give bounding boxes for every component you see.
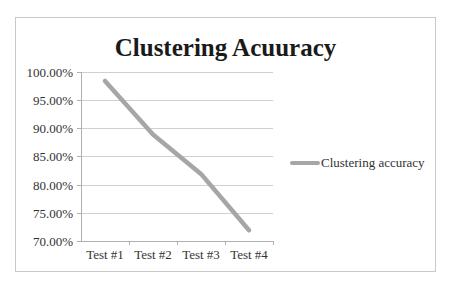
x-tick-label: Test #2 [134, 247, 172, 262]
axes [77, 72, 274, 245]
x-tick-labels: Test #1 Test #2 Test #3 Test #4 [86, 247, 268, 262]
legend-line-swatch-icon [290, 161, 320, 165]
plot-area: 100.00% 95.00% 90.00% 85.00% 80.00% 75.0… [0, 0, 451, 287]
y-tick-label: 80.00% [33, 178, 73, 193]
y-tick-labels: 100.00% 95.00% 90.00% 85.00% 80.00% 75.0… [26, 65, 73, 249]
x-tick-label: Test #4 [230, 247, 268, 262]
y-tick-label: 95.00% [33, 93, 73, 108]
y-tick-label: 75.00% [33, 206, 73, 221]
legend-label: Clustering accuracy [321, 155, 425, 171]
y-tick-label: 90.00% [33, 121, 73, 136]
y-tick-label: 85.00% [33, 149, 73, 164]
series-line-clustering-accuracy [105, 81, 249, 230]
y-tick-label: 100.00% [26, 65, 73, 80]
legend: Clustering accuracy [290, 155, 425, 171]
x-tick-label: Test #3 [182, 247, 220, 262]
y-tick-label: 70.00% [33, 234, 73, 249]
x-tick-label: Test #1 [86, 247, 124, 262]
gridlines [81, 73, 273, 214]
